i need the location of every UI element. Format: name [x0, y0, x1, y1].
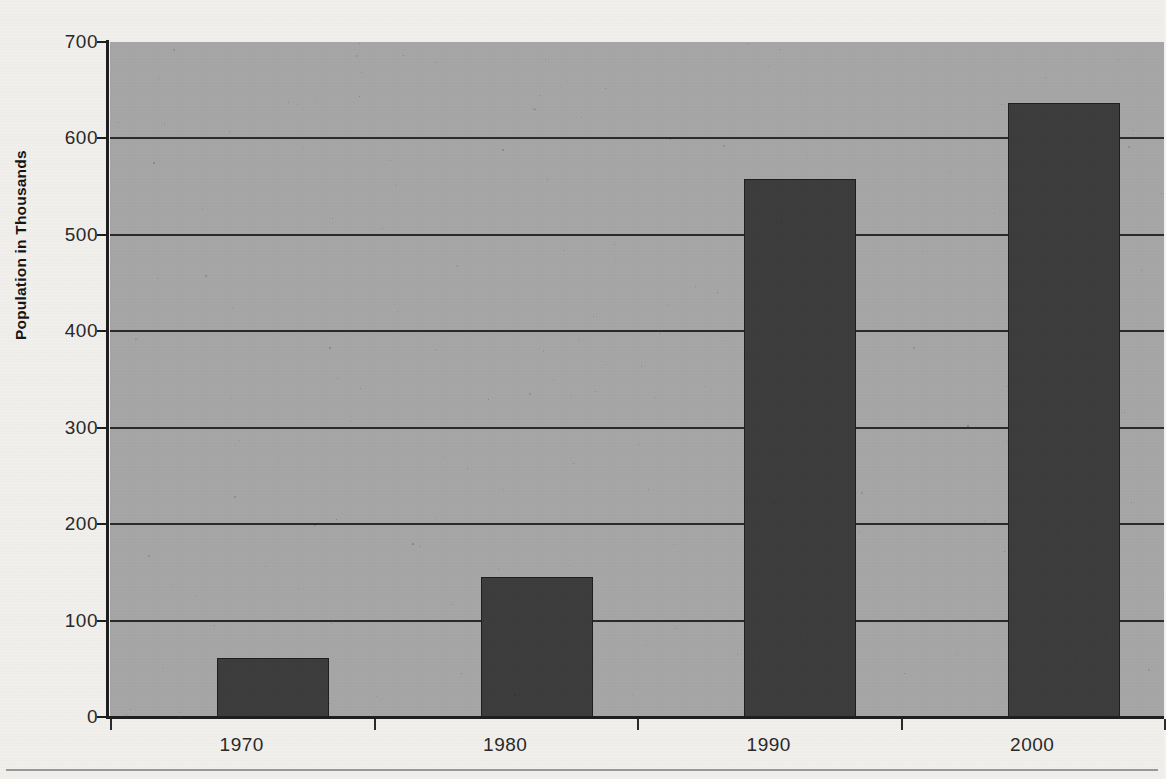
y-axis-line — [106, 40, 109, 719]
gridline — [110, 330, 1164, 332]
scan-speck — [632, 694, 633, 695]
scan-speck — [722, 340, 723, 341]
scan-speck — [861, 492, 863, 494]
x-axis-tick-label: 1970 — [182, 735, 302, 754]
scan-speck — [382, 228, 383, 229]
scan-speck — [660, 333, 661, 334]
scan-speck — [436, 349, 437, 350]
gridline — [110, 620, 1164, 622]
scan-speck — [502, 149, 504, 151]
scan-speck — [265, 566, 266, 567]
scan-speck — [234, 496, 236, 498]
y-axis-tick-label: 700 — [46, 32, 98, 51]
scan-speck — [303, 147, 304, 148]
scan-speck — [315, 96, 316, 97]
scan-speck — [780, 49, 781, 50]
scan-speck — [984, 520, 985, 521]
scan-speck — [157, 278, 158, 279]
scan-speck — [1001, 104, 1002, 105]
scan-speck — [1141, 270, 1142, 271]
scan-speck — [337, 378, 338, 379]
scan-speck — [153, 162, 155, 164]
scan-speck — [641, 366, 642, 367]
y-axis-tick-label: 0 — [46, 707, 98, 726]
scan-speck — [1133, 130, 1134, 131]
scan-speck — [1131, 502, 1132, 503]
scan-speck — [180, 712, 181, 713]
x-axis-tick — [110, 719, 112, 730]
scan-speck — [403, 55, 404, 56]
scan-speck — [331, 623, 332, 624]
scan-speck — [514, 182, 515, 183]
scan-speck — [298, 588, 299, 589]
scan-speck — [1045, 77, 1046, 78]
scan-speck — [164, 123, 165, 124]
scan-speck — [452, 604, 453, 605]
scan-speck — [957, 655, 958, 656]
x-axis-tick-label: 1980 — [445, 735, 565, 754]
scan-speck — [564, 250, 565, 251]
scan-speck — [239, 440, 240, 441]
scan-speck — [545, 59, 546, 60]
scan-speck — [1163, 597, 1164, 598]
x-axis-tick-label: 2000 — [972, 735, 1092, 754]
y-axis-tick-label: 600 — [46, 128, 98, 147]
scan-speck — [695, 286, 696, 287]
scan-speck — [540, 95, 541, 96]
scan-speck — [859, 531, 860, 532]
scan-speck — [801, 90, 802, 91]
scan-speck — [561, 87, 562, 88]
scan-speck — [655, 397, 656, 398]
scan-speck — [397, 311, 398, 312]
scan-speck — [768, 66, 769, 67]
scan-speck — [607, 364, 608, 365]
scan-speck — [148, 555, 150, 557]
scan-speck — [1133, 62, 1134, 63]
y-axis-tick-label: 400 — [46, 321, 98, 340]
scan-speck — [612, 471, 613, 472]
scan-speck — [488, 399, 489, 400]
scan-speck — [130, 709, 131, 710]
plot-texture — [110, 42, 1164, 717]
scan-speck — [361, 72, 362, 73]
scan-speck — [568, 565, 569, 566]
scan-speck — [543, 351, 544, 352]
bar — [1008, 103, 1120, 717]
scan-speck — [1128, 146, 1130, 148]
scan-speck — [648, 489, 649, 490]
scan-speck — [553, 379, 554, 380]
scan-speck — [668, 305, 669, 306]
x-axis-tick — [901, 719, 903, 730]
gridline — [110, 427, 1164, 429]
scan-speck — [467, 468, 468, 469]
gridline — [110, 137, 1164, 139]
scan-speck — [529, 393, 531, 395]
scan-speck — [456, 265, 458, 267]
scan-speck — [118, 122, 119, 123]
scan-speck — [829, 165, 830, 166]
scan-speck — [173, 49, 175, 51]
scan-speck — [390, 160, 391, 161]
y-axis-tick — [97, 234, 108, 236]
scan-speck — [949, 171, 950, 172]
scan-speck — [214, 625, 215, 626]
scan-speck — [205, 275, 207, 277]
scan-speck — [747, 44, 748, 45]
scan-speck — [196, 595, 197, 596]
scan-speck — [570, 395, 571, 396]
scan-speck — [535, 109, 536, 110]
scan-speck — [171, 586, 172, 587]
scan-speck — [723, 145, 725, 147]
bar — [744, 179, 856, 717]
scan-speck — [412, 543, 414, 545]
scan-speck — [435, 62, 436, 63]
bar — [481, 577, 593, 717]
scan-speck — [503, 489, 504, 490]
scan-speck — [435, 519, 436, 520]
scan-speck — [420, 546, 421, 547]
scan-speck — [202, 209, 203, 210]
gridline — [110, 234, 1164, 236]
scan-speck — [806, 158, 807, 159]
y-axis-tick — [97, 620, 108, 622]
